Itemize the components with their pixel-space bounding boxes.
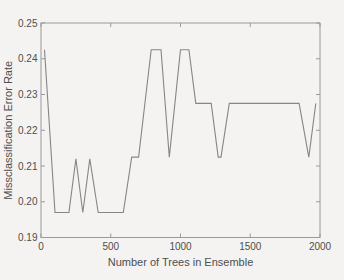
plot-box (41, 23, 320, 238)
misclassification-line-chart: 05001000150020000.190.200.210.220.230.24… (0, 0, 344, 280)
data-series (45, 50, 316, 213)
x-axis-label: Number of Trees in Ensemble (108, 256, 254, 268)
x-tick-label: 1500 (239, 241, 262, 252)
y-tick-label: 0.21 (18, 161, 38, 172)
plot-frame (41, 23, 320, 238)
axis-tick-labels: 05001000150020000.190.200.210.220.230.24… (18, 18, 332, 253)
axis-ticks (41, 23, 320, 238)
y-tick-label: 0.20 (18, 196, 38, 207)
series-line-misclassification-error-rate (45, 50, 316, 213)
x-tick-label: 2000 (309, 241, 332, 252)
figure-page: 05001000150020000.190.200.210.220.230.24… (0, 0, 344, 280)
x-tick-label: 500 (102, 241, 119, 252)
x-tick-label: 1000 (169, 241, 192, 252)
y-axis-label: Missclassification Error Rate (2, 61, 14, 200)
y-tick-label: 0.19 (18, 232, 38, 243)
y-tick-label: 0.25 (18, 18, 38, 29)
y-tick-label: 0.23 (18, 89, 38, 100)
x-tick-label: 0 (38, 241, 44, 252)
y-tick-label: 0.22 (18, 125, 38, 136)
y-tick-label: 0.24 (18, 53, 38, 64)
